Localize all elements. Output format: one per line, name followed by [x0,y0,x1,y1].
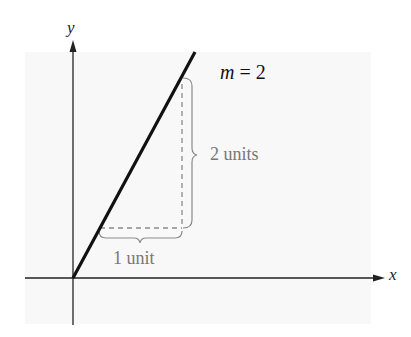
run-brace-icon [99,231,182,243]
slope-line [73,52,195,278]
rise-label: 2 units [210,144,259,165]
x-axis-arrow-icon [373,275,385,282]
slope-variable: m [220,61,234,83]
y-axis-label: y [67,18,75,38]
run-label: 1 unit [113,248,155,269]
slope-value: = 2 [234,61,265,83]
slope-diagram [0,0,411,337]
rise-brace-icon [183,78,197,228]
slope-label: m = 2 [220,61,266,84]
y-axis-arrow-icon [70,40,77,52]
x-axis-label: x [389,265,397,285]
